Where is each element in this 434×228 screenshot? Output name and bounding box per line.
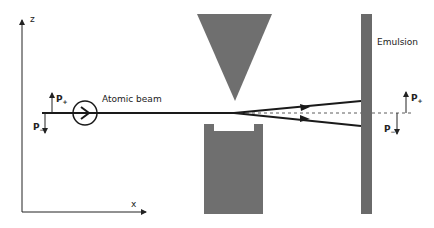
beam-split-lower (234, 113, 361, 126)
atomic-beam-label: Atomic beam (102, 94, 162, 104)
upper-beam-arrow-icon (300, 104, 310, 111)
z-axis-label: z (30, 14, 35, 24)
beam-split-upper (234, 101, 361, 113)
atomic-beam: Atomic beam (42, 94, 240, 125)
p-plus-label-right: P+ (411, 93, 423, 104)
p-minus-label-left: P− (33, 122, 45, 133)
emulsion-label: Emulsion (377, 37, 418, 47)
x-axis-label: x (131, 199, 137, 209)
right-polarization: P+ P− (384, 92, 423, 135)
stern-gerlach-diagram: z x Atomic beam P+ P− Emulsion P+ P− (0, 0, 434, 228)
p-plus-label-left: P+ (56, 94, 68, 105)
emulsion-plate: Emulsion (361, 14, 418, 214)
p-minus-label-right: P− (384, 124, 396, 135)
upper-magnet-pole (197, 14, 272, 101)
split-beams (234, 101, 412, 126)
emulsion-bar (361, 14, 372, 214)
lower-magnet-pole (204, 124, 263, 214)
